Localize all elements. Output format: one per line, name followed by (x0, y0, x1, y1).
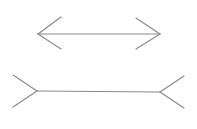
fin-line (160, 76, 184, 92)
fin-line (13, 75, 37, 91)
figure-arrowheads (38, 17, 160, 49)
fin-line (13, 91, 37, 107)
muller-lyer-diagram (0, 0, 197, 129)
fin-line (160, 92, 184, 108)
fin-line (136, 34, 160, 49)
fin-line (38, 34, 61, 49)
fin-line (136, 18, 160, 34)
figure-tails (13, 75, 184, 108)
shaft-line (37, 91, 160, 92)
fin-line (38, 17, 61, 34)
